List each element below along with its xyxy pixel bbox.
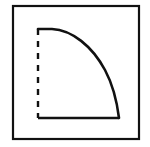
quarter-curve-diagram [0,0,150,147]
figure-background [0,0,150,147]
figure-container [0,0,150,147]
